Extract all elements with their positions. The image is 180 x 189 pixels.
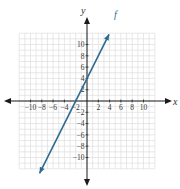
axes	[4, 17, 172, 186]
x-tick-label: 4	[108, 103, 112, 112]
y-tick-label: −8	[77, 142, 85, 151]
y-tick-label: −6	[77, 131, 85, 140]
x-axis-left-arrow-icon	[4, 98, 11, 104]
x-tick-label: −4	[60, 103, 68, 112]
x-tick-label: −10	[25, 103, 37, 112]
x-tick-label: 2	[96, 103, 100, 112]
y-axis-label: y	[80, 5, 86, 16]
x-axis-label: x	[172, 96, 178, 107]
x-tick-label: 10	[140, 103, 148, 112]
function-label: f	[114, 9, 118, 20]
x-tick-label: −8	[38, 103, 46, 112]
x-axis-right-arrow-icon	[165, 98, 172, 104]
y-axis-up-arrow-icon	[84, 17, 90, 24]
x-tick-label: 6	[119, 103, 123, 112]
y-tick-label: −2	[77, 108, 85, 117]
y-tick-label: −4	[77, 119, 85, 128]
x-tick-label: −6	[49, 103, 57, 112]
x-tick-label: 8	[130, 103, 134, 112]
y-tick-label: 4	[81, 74, 85, 83]
y-tick-label: −10	[73, 153, 85, 162]
y-tick-label: 6	[81, 63, 85, 72]
y-tick-label: 10	[77, 40, 85, 49]
y-axis-down-arrow-icon	[84, 179, 90, 186]
line-chart: −10−8−6−4−2246810−10−8−6−4−2246810 f x y	[0, 0, 180, 189]
y-tick-label: 8	[81, 52, 85, 61]
